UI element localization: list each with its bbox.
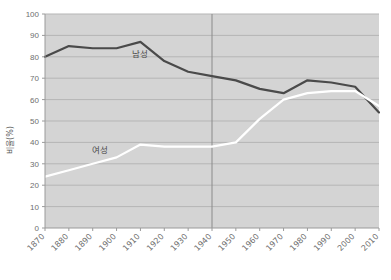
chart-container: 0102030405060708090100 18701880189019001… [0, 0, 391, 280]
series-label-1: 남성 [132, 49, 148, 59]
line-chart: 0102030405060708090100 18701880189019001… [0, 0, 391, 280]
y-tick-label: 40 [30, 138, 39, 147]
y-tick-label: 20 [30, 181, 39, 190]
y-tick-label: 30 [30, 160, 39, 169]
y-axis-title: 비율(%) [6, 126, 15, 154]
y-tick-label: 0 [35, 224, 40, 233]
series-label-2: 여성 [92, 145, 108, 155]
y-tick-label: 80 [30, 53, 39, 62]
y-tick-label: 100 [26, 10, 40, 19]
y-tick-label: 70 [30, 74, 39, 83]
y-tick-label: 50 [30, 117, 39, 126]
y-tick-label: 90 [30, 31, 39, 40]
y-tick-label: 60 [30, 96, 39, 105]
y-tick-label: 10 [30, 203, 39, 212]
